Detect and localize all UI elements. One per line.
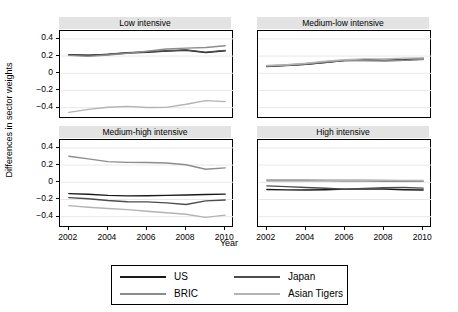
y-tick-mark [56,89,59,90]
y-axis-title: Differences in sector weights [2,30,16,210]
plot-area-low [59,30,233,118]
x-tick-mark [383,227,384,230]
x-tick-mark [266,227,267,230]
plot-area-medium-low [257,30,431,118]
plot-area-high [257,139,431,227]
y-tick-mark [56,72,59,73]
y-tick-label: −0.4 [25,102,53,111]
facet-strip-medium-high: Medium-high intensive [59,126,231,138]
y-tick-mark [56,216,59,217]
y-tick-mark [56,38,59,39]
y-tick-mark [56,147,59,148]
y-tick-mark [56,198,59,199]
y-tick-label: −0.2 [25,85,53,94]
legend-label: Asian Tigers [288,287,343,301]
plot-area-medium-high [59,139,233,227]
y-tick-label: 0 [25,68,53,77]
x-tick-mark [146,227,147,230]
x-tick-mark [224,227,225,230]
facet-strip-medium-low: Medium-low intensive [257,17,429,29]
y-tick-label: −0.4 [25,211,53,220]
x-tick-mark [305,227,306,230]
x-tick-mark [68,227,69,230]
y-tick-label: 0.2 [25,160,53,169]
y-tick-label: 0.4 [25,142,53,151]
series-line-asian-tigers [267,58,423,66]
legend-swatch [234,293,280,295]
y-tick-label: 0 [25,177,53,186]
x-tick-mark [185,227,186,230]
series-line-japan [267,186,423,189]
y-tick-mark [56,55,59,56]
series-line-bric [69,156,225,169]
y-tick-label: 0.4 [25,33,53,42]
y-tick-mark [56,181,59,182]
series-line-us [69,194,225,196]
plot-canvas-medium-low [259,32,431,118]
y-tick-mark [56,107,59,108]
legend-label: BRIC [174,287,198,301]
x-tick-mark [344,227,345,230]
legend-label: US [174,270,188,284]
x-tick-mark [422,227,423,230]
legend-swatch [120,293,166,295]
plot-canvas-medium-high [61,141,233,227]
y-axis-title-text: Differences in sector weights [2,30,16,210]
chart-root: Differences in sector weights Low intens… [0,0,458,312]
legend-swatch [234,276,280,278]
facet-strip-low: Low intensive [59,17,231,29]
x-axis-title: Year [0,238,458,248]
y-tick-mark [56,164,59,165]
x-tick-mark [107,227,108,230]
series-line-asian-tigers [69,101,225,113]
y-tick-label: −0.2 [25,194,53,203]
series-line-japan [69,198,225,205]
facet-strip-high: High intensive [257,126,429,138]
chart-legend: USJapanBRICAsian Tigers [111,265,348,305]
series-line-asian-tigers [69,206,225,218]
plot-canvas-high [259,141,431,227]
legend-label: Japan [288,270,315,284]
plot-canvas-low [61,32,233,118]
legend-swatch [120,276,166,278]
y-tick-label: 0.2 [25,51,53,60]
